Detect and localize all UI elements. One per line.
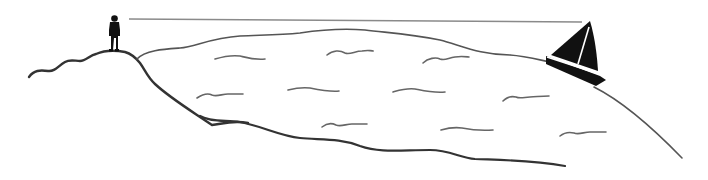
sailboat [546, 21, 606, 86]
shore-outline [200, 116, 565, 166]
sea-curve-right [594, 87, 682, 158]
waves [197, 51, 606, 136]
sea-surface-top [137, 29, 550, 62]
line-of-sight [129, 19, 582, 22]
illustration-canvas [0, 0, 708, 180]
hill-outline [29, 51, 248, 125]
observer-figure [109, 15, 120, 51]
